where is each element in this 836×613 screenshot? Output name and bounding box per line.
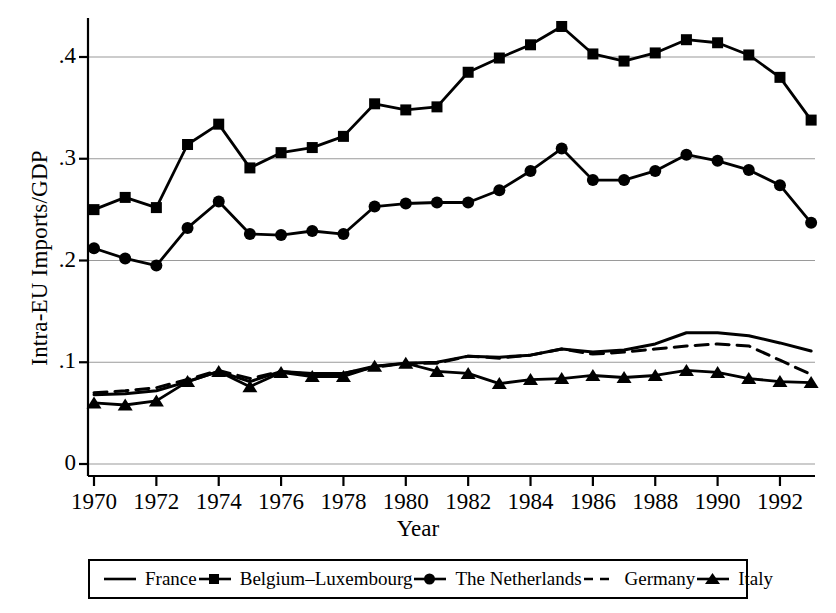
legend-label: Italy (738, 568, 773, 590)
legend-entry-belgium-luxembourg[interactable]: Belgium–Luxembourg (197, 568, 413, 590)
legend-entry-france[interactable]: France (102, 568, 197, 590)
series-the-netherlands (88, 143, 817, 272)
line-triangle-icon (695, 571, 731, 587)
line-dashed-icon (582, 571, 618, 587)
y-tick-label: .3 (28, 146, 76, 169)
gridlines (88, 57, 815, 464)
series-france (94, 333, 811, 395)
legend-label: The Netherlands (455, 568, 581, 590)
legend-label: Belgium–Luxembourg (240, 568, 413, 590)
legend-entry-germany[interactable]: Germany (582, 568, 696, 590)
line-square-icon (197, 571, 233, 587)
y-tick-label: .4 (28, 44, 76, 67)
axis-lines (79, 18, 815, 486)
line-circle-icon (412, 571, 448, 587)
series-italy (87, 357, 819, 411)
legend-entry-the-netherlands[interactable]: The Netherlands (412, 568, 581, 590)
line-solid-icon (102, 571, 138, 587)
series-belgium-luxembourg (89, 21, 817, 215)
y-tick-label: .1 (28, 349, 76, 372)
legend-label: France (145, 568, 197, 590)
legend-label: Germany (625, 568, 696, 590)
y-tick-label: 0 (28, 451, 76, 474)
chart-figure: Intra-EU Imports/GDP Year 0.1.2.3.4 1970… (0, 0, 836, 613)
x-tick-label: 1992 (740, 490, 820, 513)
y-tick-label: .2 (28, 248, 76, 271)
series-germany (94, 344, 811, 393)
legend-entry-italy[interactable]: Italy (695, 568, 773, 590)
chart-legend: FranceBelgium–LuxembourgThe NetherlandsG… (88, 559, 748, 599)
x-axis-label: Year (0, 516, 836, 542)
